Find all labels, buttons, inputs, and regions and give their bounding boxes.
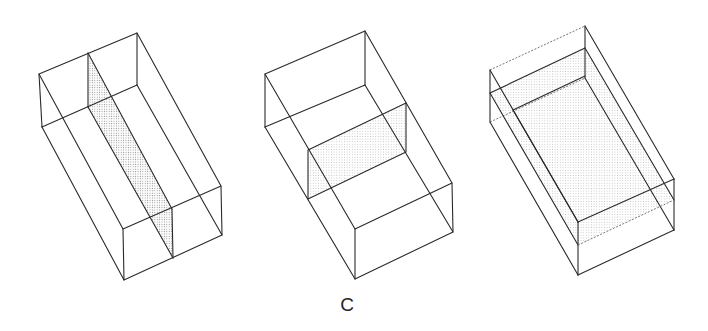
- box-1-divider: [88, 53, 172, 209]
- figure-label: C: [340, 294, 354, 315]
- box-1-cut-plane: [88, 53, 173, 258]
- box-2-edge: [265, 85, 365, 127]
- box-1-divider: [88, 107, 173, 258]
- box-1-edge: [39, 74, 42, 127]
- box-2: [265, 31, 453, 279]
- box-1: [39, 33, 222, 280]
- box-2-front-face: [355, 183, 453, 279]
- box-3: [490, 26, 674, 275]
- diagram-canvas: C: [0, 0, 708, 331]
- box-2-cut-plane: [308, 103, 406, 199]
